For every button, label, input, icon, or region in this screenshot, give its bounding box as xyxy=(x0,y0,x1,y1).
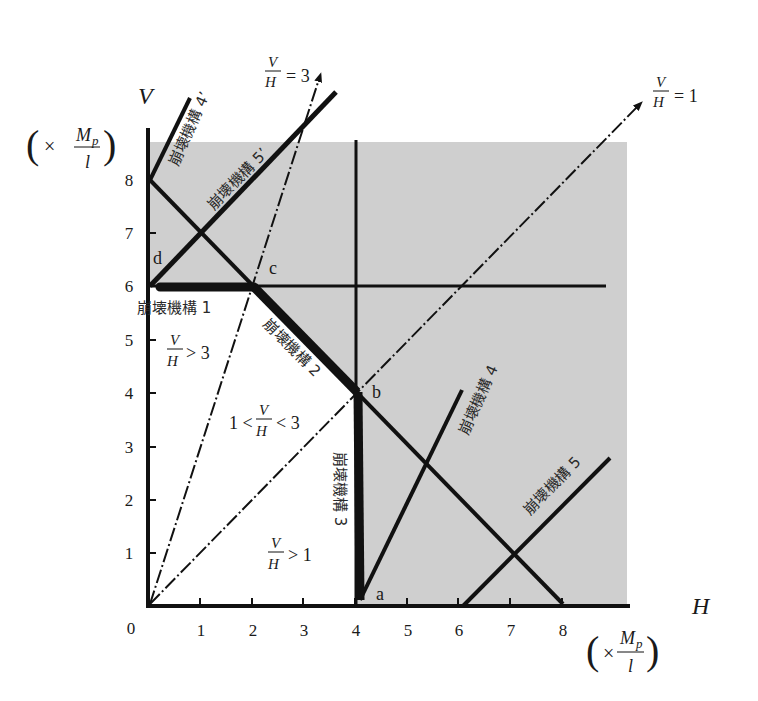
svg-text:M: M xyxy=(75,125,92,145)
y-unit-label: ( × M p l ) xyxy=(26,122,116,172)
svg-text:0: 0 xyxy=(127,619,136,638)
svg-text:p: p xyxy=(91,133,99,148)
svg-text:5: 5 xyxy=(404,621,413,640)
svg-text:p: p xyxy=(635,636,643,651)
label-ratio-3: V H = 3 xyxy=(264,54,310,90)
svg-text:H: H xyxy=(255,423,268,439)
svg-text:> 1: > 1 xyxy=(288,545,312,565)
mechanism-3-boundary xyxy=(358,392,360,600)
svg-text:5: 5 xyxy=(125,331,134,350)
collapse-mechanism-diagram: 0 1 2 3 4 5 6 7 8 1 2 3 4 5 6 7 8 V H ( … xyxy=(0,0,758,701)
svg-text:1: 1 xyxy=(197,621,206,640)
svg-text:4: 4 xyxy=(352,621,361,640)
x-axis-title: H xyxy=(691,593,711,619)
svg-text:V: V xyxy=(268,54,279,70)
svg-text:): ) xyxy=(103,122,116,167)
svg-text:8: 8 xyxy=(125,171,134,190)
svg-text:): ) xyxy=(646,628,659,673)
svg-text:= 3: = 3 xyxy=(286,66,310,86)
point-c: c xyxy=(269,258,277,278)
point-a: a xyxy=(376,584,384,604)
svg-text:l: l xyxy=(85,152,90,172)
svg-text:3: 3 xyxy=(300,621,309,640)
svg-text:H: H xyxy=(267,556,280,572)
svg-text:(: ( xyxy=(586,628,599,673)
svg-text:8: 8 xyxy=(559,621,568,640)
svg-text:V: V xyxy=(656,74,667,90)
svg-text:l: l xyxy=(628,656,633,676)
point-b: b xyxy=(372,382,381,402)
svg-text:×: × xyxy=(44,135,55,157)
label-ratio-1: V H = 1 xyxy=(652,74,698,110)
svg-text:1: 1 xyxy=(125,544,134,563)
label-mechanism-1: 崩壊機構 1 xyxy=(137,299,211,317)
y-axis-title: V xyxy=(138,83,155,109)
svg-text:M: M xyxy=(619,628,636,648)
svg-text:×: × xyxy=(603,642,614,664)
label-mechanism-3: 崩壊機構 3 xyxy=(331,452,349,526)
svg-text:6: 6 xyxy=(455,621,464,640)
point-d: d xyxy=(153,248,162,268)
x-unit-label: ( × M p l ) xyxy=(586,628,659,676)
svg-text:4: 4 xyxy=(125,384,134,403)
svg-text:1 <: 1 < xyxy=(229,413,253,433)
svg-text:7: 7 xyxy=(507,621,516,640)
svg-text:6: 6 xyxy=(125,277,134,296)
svg-text:3: 3 xyxy=(125,438,134,457)
svg-text:(: ( xyxy=(26,122,39,167)
y-tick-labels: 1 2 3 4 5 6 7 8 xyxy=(125,171,134,563)
svg-text:7: 7 xyxy=(125,224,134,243)
svg-text:2: 2 xyxy=(125,491,134,510)
svg-text:H: H xyxy=(166,353,179,369)
svg-text:2: 2 xyxy=(249,621,258,640)
svg-text:H: H xyxy=(264,74,277,90)
svg-text:< 3: < 3 xyxy=(276,413,300,433)
svg-text:H: H xyxy=(652,94,665,110)
x-tick-labels: 0 1 2 3 4 5 6 7 8 xyxy=(127,619,568,640)
svg-text:> 3: > 3 xyxy=(186,343,210,363)
svg-text:= 1: = 1 xyxy=(674,86,698,106)
